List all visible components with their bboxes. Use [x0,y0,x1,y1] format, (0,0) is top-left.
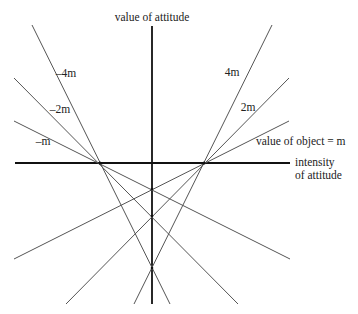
ray-minus-2m [14,78,238,304]
horizontal-axis-label-line1: intensity [295,156,335,169]
intersection-m [151,188,154,191]
vertical-axis-label: value of attitude [115,11,190,23]
left-origin-point [98,161,101,164]
ray-2m [66,78,289,304]
ray-label-m: value of object = m [256,135,346,148]
intersection-2m [151,215,154,218]
right-origin-point [202,161,205,164]
intersection-4m [151,267,154,270]
ray-label-minus-2m: –2m [49,103,71,115]
ray-label-minus-4m: –4m [55,67,77,79]
ray-label-4m: 4m [225,66,240,78]
horizontal-axis-label-line2: of attitude [295,169,342,181]
attitude-diagram: value of attitude intensity of attitude … [0,0,358,314]
ray-label-2m: 2m [241,101,256,113]
ray-label-minus-m: –m [35,135,51,147]
